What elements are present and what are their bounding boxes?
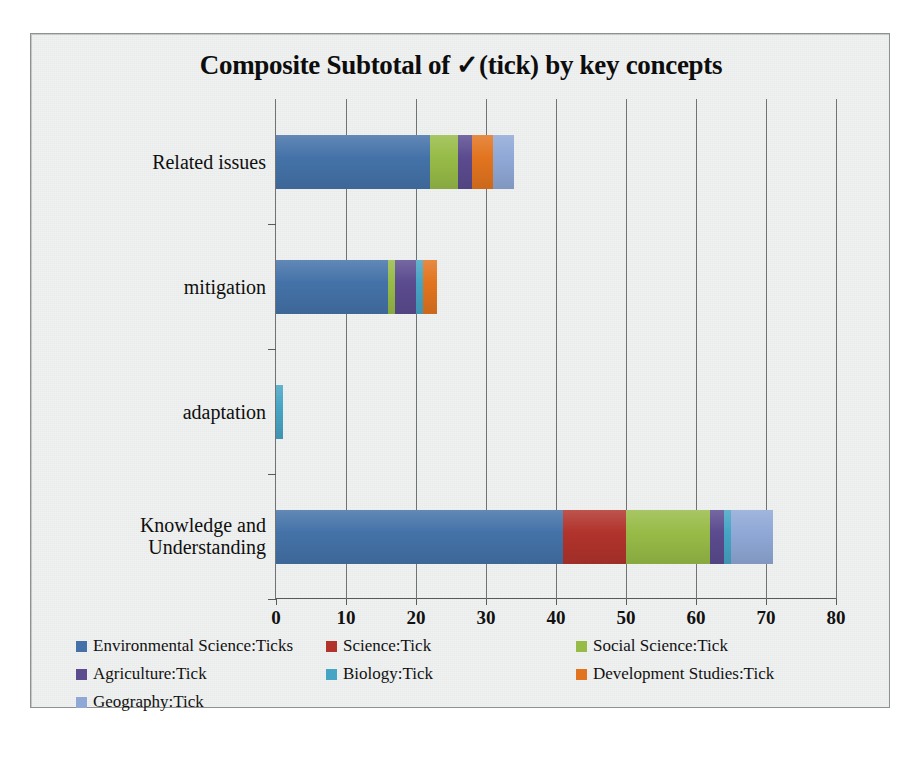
bar-segment[interactable] — [416, 260, 423, 314]
x-axis-tick-label: 80 — [827, 607, 846, 629]
x-axis-tick-label: 30 — [477, 607, 496, 629]
legend-label: Social Science:Tick — [593, 636, 728, 656]
bar-segment[interactable] — [724, 510, 731, 564]
category-axis-labels: Related issuesmitigationadaptationKnowle… — [71, 99, 266, 599]
bar-row — [276, 510, 836, 564]
legend-swatch-icon — [76, 669, 87, 680]
y-axis-tick — [268, 474, 276, 475]
x-axis-tick-label: 60 — [687, 607, 706, 629]
y-axis-tick — [268, 599, 276, 600]
legend-swatch-icon — [326, 641, 337, 652]
category-label: Related issues — [152, 151, 266, 173]
legend-label: Geography:Tick — [93, 692, 204, 712]
bar-segment[interactable] — [276, 135, 430, 189]
gridline — [836, 99, 837, 599]
legend-swatch-icon — [576, 641, 587, 652]
legend-item[interactable]: Geography:Tick — [76, 692, 326, 712]
legend-row: Environmental Science:TicksScience:TickS… — [76, 632, 866, 660]
bar-row — [276, 135, 836, 189]
plot-area: 01020304050607080 — [276, 99, 836, 599]
bar-segment[interactable] — [493, 135, 514, 189]
category-label: Knowledge and Understanding — [140, 514, 266, 559]
legend-swatch-icon — [76, 641, 87, 652]
x-axis-tick-label: 20 — [407, 607, 426, 629]
bar-segment[interactable] — [395, 260, 416, 314]
bar-segment[interactable] — [423, 260, 437, 314]
bar-segment[interactable] — [276, 385, 283, 439]
bar-segment[interactable] — [472, 135, 493, 189]
legend-item[interactable]: Environmental Science:Ticks — [76, 636, 326, 656]
x-axis-tick — [696, 599, 697, 605]
bar-segment[interactable] — [626, 510, 710, 564]
x-axis-tick — [276, 599, 277, 605]
legend-item[interactable]: Development Studies:Tick — [576, 664, 866, 684]
bar-segment[interactable] — [710, 510, 724, 564]
legend-item[interactable]: Science:Tick — [326, 636, 576, 656]
legend-item[interactable]: Biology:Tick — [326, 664, 576, 684]
legend-label: Science:Tick — [343, 636, 431, 656]
legend-swatch-icon — [76, 697, 87, 708]
x-axis-tick-label: 70 — [757, 607, 776, 629]
x-axis-tick — [346, 599, 347, 605]
x-axis-tick-label: 0 — [271, 607, 281, 629]
y-axis-tick — [268, 349, 276, 350]
legend-row: Geography:Tick — [76, 688, 866, 716]
bar-segment[interactable] — [276, 510, 563, 564]
legend-label: Development Studies:Tick — [593, 664, 774, 684]
bar-segment[interactable] — [458, 135, 472, 189]
chart-legend: Environmental Science:TicksScience:TickS… — [76, 632, 866, 716]
x-axis-tick — [416, 599, 417, 605]
x-axis-tick-label: 10 — [337, 607, 356, 629]
x-axis-tick — [766, 599, 767, 605]
bar-segment[interactable] — [276, 260, 388, 314]
x-axis-tick-label: 40 — [547, 607, 566, 629]
stacked-bar[interactable] — [276, 260, 437, 314]
stacked-bar[interactable] — [276, 510, 773, 564]
x-axis-tick-label: 50 — [617, 607, 636, 629]
bar-segment[interactable] — [388, 260, 395, 314]
x-axis-tick — [486, 599, 487, 605]
stacked-bar[interactable] — [276, 385, 283, 439]
legend-item[interactable]: Agriculture:Tick — [76, 664, 326, 684]
chart-title: Composite Subtotal of ✓(tick) by key con… — [31, 49, 891, 81]
legend-label: Agriculture:Tick — [93, 664, 207, 684]
legend-swatch-icon — [326, 669, 337, 680]
legend-row: Agriculture:TickBiology:TickDevelopment … — [76, 660, 866, 688]
category-label: mitigation — [184, 276, 266, 298]
legend-item[interactable]: Social Science:Tick — [576, 636, 866, 656]
bar-segment[interactable] — [430, 135, 458, 189]
legend-label: Environmental Science:Ticks — [93, 636, 293, 656]
x-axis-tick — [556, 599, 557, 605]
x-axis-tick — [836, 599, 837, 605]
chart-frame: Composite Subtotal of ✓(tick) by key con… — [30, 33, 890, 708]
x-axis-tick — [626, 599, 627, 605]
legend-swatch-icon — [576, 669, 587, 680]
bar-row — [276, 260, 836, 314]
bar-segment[interactable] — [563, 510, 626, 564]
stacked-bar[interactable] — [276, 135, 514, 189]
bar-row — [276, 385, 836, 439]
legend-label: Biology:Tick — [343, 664, 433, 684]
y-axis-tick — [268, 224, 276, 225]
category-label: adaptation — [183, 401, 266, 423]
bar-segment[interactable] — [731, 510, 773, 564]
